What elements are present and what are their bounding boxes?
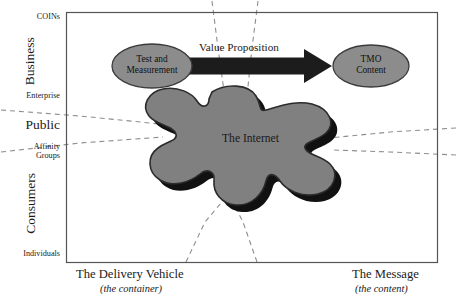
internet-cloud [146,86,342,212]
bottom-left-axis-subtitle: (the container) [100,283,162,294]
axis-label-public: Public [0,118,60,133]
tm-line-1: Test and [136,54,167,64]
tmo-content-label: TMO Content [333,54,409,77]
value-proposition-label: Value Proposition [199,41,279,53]
bottom-right-axis-title: The Message [352,268,419,282]
bottom-right-axis-subtitle: (the content) [355,283,408,294]
bottom-left-axis-title: The Delivery Vehicle [76,268,183,282]
tmo-line-1: TMO [361,54,382,64]
value-proposition-arrow [186,49,332,83]
axis-label-coins: COINs [0,13,60,22]
test-and-measurement-label: Test and Measurement [112,54,192,77]
internet-label: The Internet [222,133,279,146]
axis-label-enterprise: Enterprise [0,92,60,101]
axis-label-business: Business [23,27,38,95]
axis-label-individuals: Individuals [0,250,60,259]
axis-label-consumers: Consumers [24,164,39,242]
axis-label-groups: Groups [0,152,60,161]
tmo-line-2: Content [356,65,386,75]
diagram-canvas: COINs Business Enterprise Public Affinit… [0,0,457,301]
tm-line-2: Measurement [126,65,177,75]
